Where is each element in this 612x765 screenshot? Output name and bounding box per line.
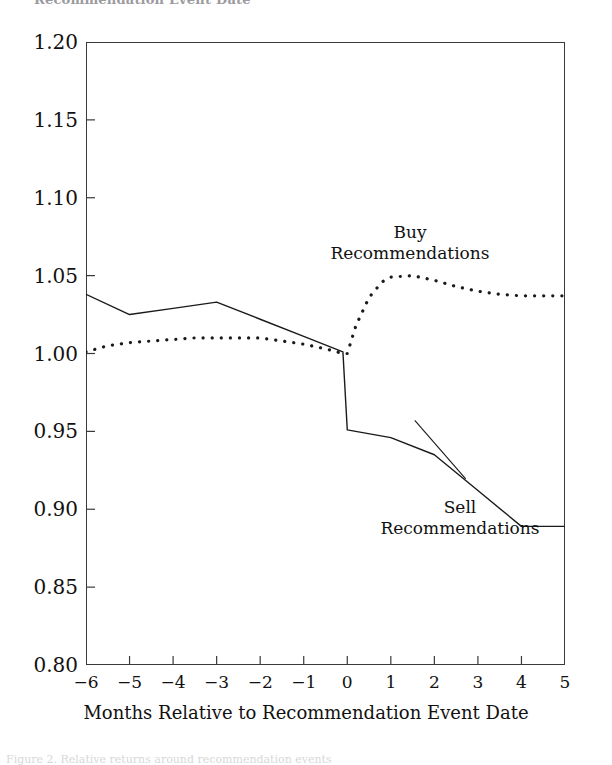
x-tick-label: 2 (414, 672, 454, 692)
series-label-sell-line2: Recommendations (340, 518, 580, 539)
x-tick-label: 4 (501, 672, 541, 692)
x-tick-label: 0 (327, 672, 367, 692)
x-tick-label: 3 (458, 672, 498, 692)
x-tick-label: −2 (240, 672, 280, 692)
y-tick-label: 1.05 (12, 266, 78, 286)
y-tick-label: 1.00 (12, 344, 78, 364)
y-tick-label: 1.20 (12, 32, 78, 52)
y-tick-label: 1.10 (12, 188, 78, 208)
chart-page: Recommendation Event Date 1.201.151.101.… (0, 0, 612, 765)
x-axis: −6−5−4−3−2−1012345 (0, 672, 612, 698)
plot-canvas (86, 42, 565, 665)
x-tick-label: −4 (153, 672, 193, 692)
series-label-buy-line1: Buy (300, 222, 520, 243)
x-tick-label: 5 (545, 672, 585, 692)
y-tick-label: 0.85 (12, 577, 78, 597)
x-tick-label: −6 (66, 672, 106, 692)
cropped-header-fragment: Recommendation Event Date (34, 0, 334, 6)
x-tick-label: 1 (371, 672, 411, 692)
y-tick-label: 0.95 (12, 421, 78, 441)
series-label-buy-line2: Recommendations (300, 243, 520, 264)
x-axis-title: Months Relative to Recommendation Event … (0, 702, 612, 723)
x-tick-label: −1 (284, 672, 324, 692)
y-tick-label: 1.15 (12, 110, 78, 130)
series-line-buy (86, 276, 565, 354)
y-axis: 1.201.151.101.051.000.950.900.850.80 (8, 0, 78, 765)
series-label-buy: Buy Recommendations (300, 222, 520, 264)
series-label-sell: Sell Recommendations (340, 497, 580, 539)
x-tick-label: −5 (110, 672, 150, 692)
series-line-sell (86, 294, 565, 526)
cropped-footer-fragment: Figure 2. Relative returns around recomm… (6, 753, 426, 765)
x-tick-label: −3 (197, 672, 237, 692)
series-label-sell-line1: Sell (340, 497, 580, 518)
y-tick-label: 0.90 (12, 499, 78, 519)
